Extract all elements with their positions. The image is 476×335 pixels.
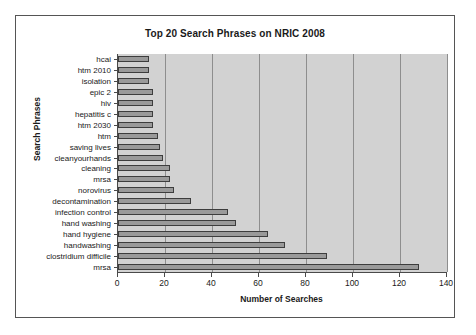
y-axis-tick-label: handwashing bbox=[64, 240, 111, 249]
x-axis-tick-label: 0 bbox=[115, 278, 120, 288]
y-axis-tick-label: cleanyourhands bbox=[55, 153, 111, 162]
bar-row[interactable] bbox=[118, 65, 447, 76]
bar-row[interactable] bbox=[118, 98, 447, 109]
bar-row[interactable] bbox=[118, 130, 447, 141]
bar-row[interactable] bbox=[118, 87, 447, 98]
bar[interactable] bbox=[118, 89, 153, 95]
x-axis-tick-label: 20 bbox=[159, 278, 168, 288]
x-axis-tick-label: 120 bbox=[392, 278, 406, 288]
bar-row[interactable] bbox=[118, 54, 447, 65]
bar[interactable] bbox=[118, 56, 149, 62]
x-axis-tick bbox=[446, 273, 447, 277]
bar[interactable] bbox=[118, 220, 236, 226]
bar-row[interactable] bbox=[118, 196, 447, 207]
bar[interactable] bbox=[118, 187, 174, 193]
bar[interactable] bbox=[118, 133, 158, 139]
y-axis-tick-label: hand washing bbox=[62, 218, 111, 227]
bar-row[interactable] bbox=[118, 109, 447, 120]
bar[interactable] bbox=[118, 176, 170, 182]
gridline bbox=[447, 54, 448, 272]
bar-row[interactable] bbox=[118, 163, 447, 174]
y-axis-tick-label: infection control bbox=[55, 208, 111, 217]
bar-row[interactable] bbox=[118, 239, 447, 250]
bar[interactable] bbox=[118, 78, 149, 84]
bar[interactable] bbox=[118, 209, 228, 215]
bar-row[interactable] bbox=[118, 119, 447, 130]
bar[interactable] bbox=[118, 122, 153, 128]
bar-row[interactable] bbox=[118, 141, 447, 152]
y-axis-tick-label: epic 2 bbox=[90, 88, 111, 97]
bar-row[interactable] bbox=[118, 218, 447, 229]
y-axis-tick-label: saving lives bbox=[70, 142, 111, 151]
x-axis-tick-label: 80 bbox=[300, 278, 309, 288]
y-axis-tick-label: hiv bbox=[101, 99, 111, 108]
y-axis-tick-label: htm bbox=[98, 131, 111, 140]
bar[interactable] bbox=[118, 264, 419, 270]
bar[interactable] bbox=[118, 100, 153, 106]
bar-row[interactable] bbox=[118, 152, 447, 163]
plot-area bbox=[117, 54, 447, 273]
bar[interactable] bbox=[118, 231, 268, 237]
y-axis-tick-label: isolation bbox=[82, 77, 111, 86]
bar[interactable] bbox=[118, 155, 163, 161]
y-axis-tick-label: cleaning bbox=[81, 164, 111, 173]
y-axis-tick-label: htm 2010 bbox=[78, 66, 111, 75]
bar[interactable] bbox=[118, 242, 285, 248]
x-axis-tick-label: 100 bbox=[345, 278, 359, 288]
y-axis-tick-label: clostridium difficile bbox=[46, 251, 111, 260]
y-axis-tick-label: hepatitis c bbox=[75, 109, 111, 118]
bar-row[interactable] bbox=[118, 261, 447, 272]
bar-row[interactable] bbox=[118, 207, 447, 218]
x-axis-tick-label: 140 bbox=[439, 278, 453, 288]
y-axis-tick-label: htm 2030 bbox=[78, 120, 111, 129]
bar[interactable] bbox=[118, 67, 149, 73]
bar-row[interactable] bbox=[118, 174, 447, 185]
y-axis-labels: hcaihtm 2010isolationepic 2hivhepatitis … bbox=[16, 54, 115, 272]
y-axis-tick-label: mrsa bbox=[93, 175, 111, 184]
x-axis-tick-label: 60 bbox=[253, 278, 262, 288]
bar[interactable] bbox=[118, 144, 160, 150]
y-axis-tick-label: hand hygiene bbox=[63, 229, 111, 238]
bar[interactable] bbox=[118, 111, 153, 117]
x-axis-tick bbox=[211, 273, 212, 277]
x-axis-title: Number of Searches bbox=[117, 294, 446, 304]
x-axis-tick bbox=[164, 273, 165, 277]
bar[interactable] bbox=[118, 165, 170, 171]
y-axis-tick-label: decontamination bbox=[52, 197, 111, 206]
x-axis-tick bbox=[399, 273, 400, 277]
x-axis-tick bbox=[305, 273, 306, 277]
y-axis-tick-label: norovirus bbox=[78, 186, 111, 195]
bar-row[interactable] bbox=[118, 250, 447, 261]
bar-row[interactable] bbox=[118, 185, 447, 196]
chart-title: Top 20 Search Phrases on NRIC 2008 bbox=[16, 28, 454, 39]
y-axis-tick-label: mrsa bbox=[93, 262, 111, 271]
x-axis-tick bbox=[352, 273, 353, 277]
bar-row[interactable] bbox=[118, 228, 447, 239]
x-axis-tick-label: 40 bbox=[206, 278, 215, 288]
y-axis-tick-label: hcai bbox=[96, 55, 111, 64]
bar[interactable] bbox=[118, 253, 327, 259]
bar-row[interactable] bbox=[118, 76, 447, 87]
bar[interactable] bbox=[118, 198, 191, 204]
chart-frame: Top 20 Search Phrases on NRIC 2008 Searc… bbox=[15, 15, 455, 318]
x-axis-tick bbox=[258, 273, 259, 277]
x-axis-tick bbox=[117, 273, 118, 277]
